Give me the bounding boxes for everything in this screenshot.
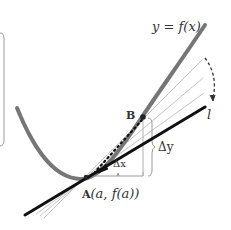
point-b-marker bbox=[140, 114, 146, 120]
point-b-label: B bbox=[126, 110, 135, 121]
curve-label: y = f(x) bbox=[152, 20, 201, 33]
point-a-coords: (a, f(a)) bbox=[91, 186, 140, 201]
rotation-arrow-icon bbox=[210, 95, 215, 101]
tangent-secant-diagram: y = f(x) B Δy Δx A(a, f(a)) l bbox=[0, 0, 231, 230]
point-a-name: A bbox=[82, 188, 91, 201]
delta-x-label: Δx bbox=[113, 159, 126, 169]
tangent-label: l bbox=[207, 108, 211, 121]
point-a-marker bbox=[84, 175, 88, 179]
point-a-label: A(a, f(a)) bbox=[82, 187, 139, 200]
rotation-arc bbox=[205, 58, 214, 98]
delta-y-bracket bbox=[148, 118, 155, 176]
delta-y-label: Δy bbox=[158, 141, 173, 153]
left-frame-bracket bbox=[0, 33, 4, 146]
